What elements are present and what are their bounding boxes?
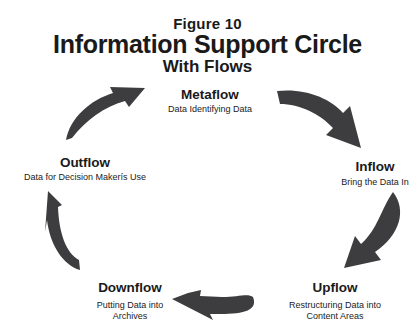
node-description-line: Archives xyxy=(75,311,185,322)
arrow-metaflow-to-inflow-icon xyxy=(277,90,361,148)
node-title: Metaflow xyxy=(140,87,280,103)
arrow-outflow-to-metaflow-icon xyxy=(66,87,145,140)
node-description-line: Content Areas xyxy=(265,311,405,322)
arrow-inflow-to-upflow-icon xyxy=(344,192,400,268)
node-description: Data for Decision Makerís Use xyxy=(10,172,160,183)
node-inflow: Inflow Bring the Data In xyxy=(335,159,415,188)
node-outflow: Outflow Data for Decision Makerís Use xyxy=(10,155,160,183)
node-description-line: Restructuring Data into xyxy=(265,300,405,311)
node-title: Downflow xyxy=(75,280,185,296)
node-metaflow: Metaflow Data Identifying Data xyxy=(140,87,280,115)
node-description: Bring the Data In xyxy=(335,177,415,188)
node-downflow: Downflow Putting Data into Archives xyxy=(75,280,185,322)
node-description: Data Identifying Data xyxy=(140,104,280,115)
node-title: Upflow xyxy=(265,280,405,296)
arrow-downflow-to-outflow-icon xyxy=(45,191,80,270)
node-title: Inflow xyxy=(335,159,415,175)
node-title: Outflow xyxy=(10,155,160,171)
node-description-line: Putting Data into xyxy=(75,300,185,311)
node-upflow: Upflow Restructuring Data into Content A… xyxy=(265,280,405,322)
